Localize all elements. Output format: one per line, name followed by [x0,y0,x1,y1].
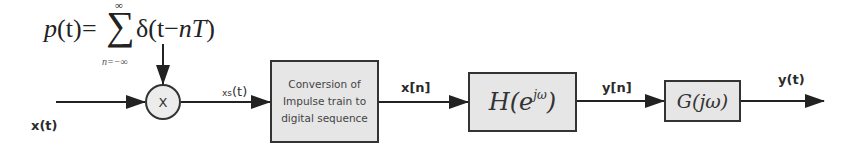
signal-label-discrete-in: x[n] [401,80,431,95]
formula-lhs: p(t) [44,14,82,44]
summation-upper-limit: ∞ [115,0,123,11]
formula-equals: = [82,14,97,44]
summation-symbol: ∑ [106,6,135,46]
reconstruction-filter-block: G(jω) [664,80,741,122]
reconstruction-filter-label: G(jω) [677,90,728,112]
multiplier-node: X [145,84,181,120]
signal-label-output: y(t) [778,72,805,87]
summation-lower-limit: n=−∞ [102,56,128,67]
signal-label-discrete-out: y[n] [602,80,632,95]
signal-label-input: x(t) [31,118,57,133]
discrete-filter-label: H(ejω) [489,88,556,116]
signal-label-sampled: xs(t) [222,84,247,99]
multiplier-label: X [159,95,168,110]
converter-block: Conversion of Impulse train to digital s… [270,60,379,143]
formula-term: δ(t−nT) [136,14,215,44]
discrete-filter-block: H(ejω) [468,72,577,132]
converter-label: Conversion of Impulse train to digital s… [276,76,373,127]
